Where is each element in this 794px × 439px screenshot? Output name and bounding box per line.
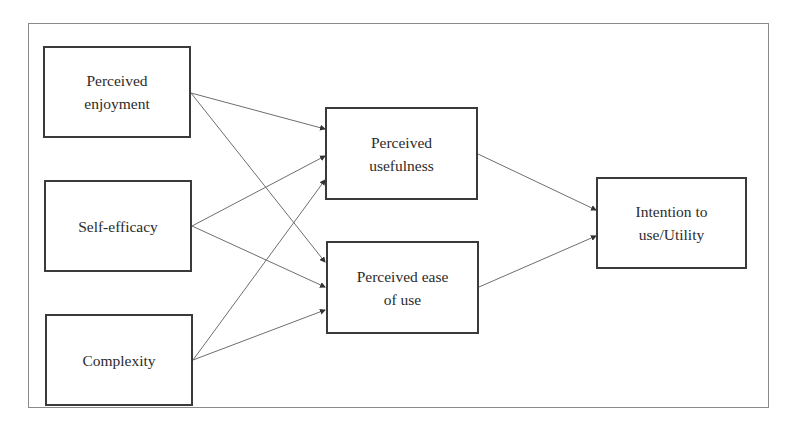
node-complexity: Complexity	[45, 314, 193, 406]
node-perceived-ease-of-use: Perceived ease of use	[326, 241, 479, 334]
edge-selfefficacy-to-easeofuse	[192, 226, 325, 287]
edge-easeofuse-to-intention	[479, 236, 596, 287]
edge-enjoyment-to-easeofuse	[191, 93, 325, 262]
node-label: Perceived ease of use	[357, 265, 449, 311]
node-label: Perceived usefulness	[369, 131, 434, 177]
edge-usefulness-to-intention	[478, 154, 596, 210]
node-label: Self-efficacy	[78, 215, 158, 238]
node-label: Intention to use/Utility	[636, 200, 708, 246]
edge-enjoyment-to-usefulness	[191, 93, 325, 129]
node-label: Perceived enjoyment	[84, 69, 149, 115]
node-perceived-enjoyment: Perceived enjoyment	[43, 46, 191, 138]
node-perceived-usefulness: Perceived usefulness	[325, 107, 478, 200]
node-label: Complexity	[82, 349, 155, 372]
node-self-efficacy: Self-efficacy	[44, 180, 192, 272]
edge-complexity-to-easeofuse	[193, 310, 325, 360]
edge-selfefficacy-to-usefulness	[192, 156, 325, 226]
edge-complexity-to-usefulness	[193, 180, 325, 360]
node-intention-to-use: Intention to use/Utility	[596, 177, 747, 269]
